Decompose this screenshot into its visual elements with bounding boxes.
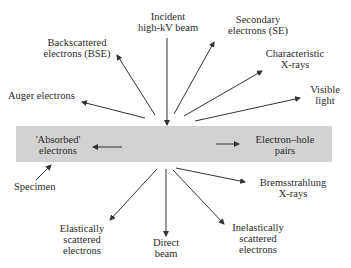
xray-label: Characteristic X-rays — [255, 48, 335, 70]
specimen-label: Specimen — [14, 181, 64, 192]
elastic-arrow — [110, 169, 157, 220]
se-label: Secondary electrons (SE) — [218, 14, 298, 36]
brems-arrow — [176, 168, 245, 182]
elastic-label: Elastically scattered electrons — [52, 223, 112, 256]
light-arrow — [195, 98, 300, 121]
direct-beam-label: Direct beam — [144, 237, 188, 259]
absorbed-label: 'Absorbed' electrons — [28, 134, 88, 156]
specimen-pointer-arrow — [36, 165, 51, 180]
auger-arrow — [82, 102, 145, 118]
eh-label: Electron–hole pairs — [248, 134, 322, 156]
auger-label: Auger electrons — [8, 90, 88, 101]
incident-beam-label: Incident high-kV beam — [128, 11, 208, 33]
brems-label: Bremsstrahlung X-rays — [248, 177, 338, 199]
inelastic-arrow — [173, 170, 224, 224]
bse-arrow — [117, 55, 155, 115]
se-arrow — [174, 42, 214, 114]
light-label: Visible light — [303, 84, 347, 106]
inelastic-label: Inelastically scattered electrons — [225, 222, 291, 255]
bse-label: Backscattered electrons (BSE) — [36, 37, 118, 59]
